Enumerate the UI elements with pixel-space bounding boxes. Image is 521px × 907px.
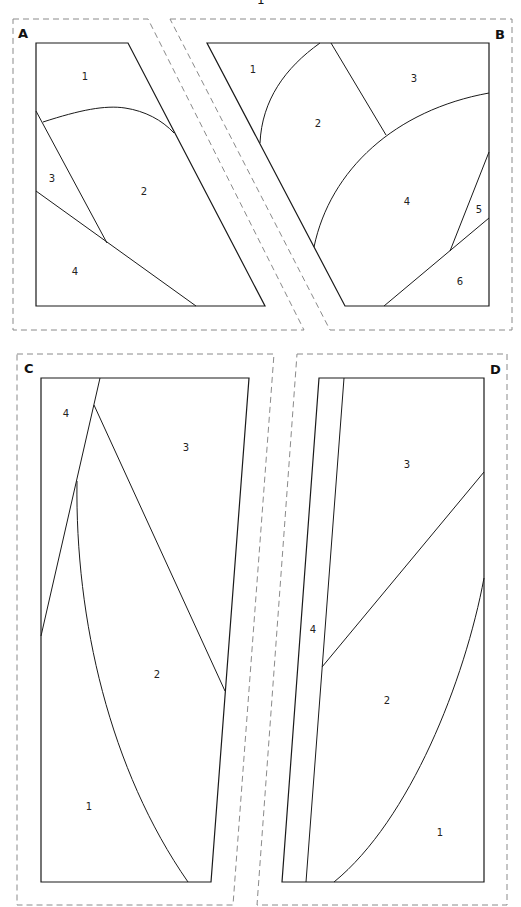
panel-d-seam-2-3 [322,472,484,667]
panel-b-label: B [495,27,505,42]
panel-a-seam-allowance [13,19,304,330]
panel-b-seam-4-5 [450,152,489,251]
panel-d-seam-1-2-arc [334,578,484,882]
panel-d-label: D [490,362,501,377]
panel-c-piece-numbers: 1 2 3 4 [63,408,189,812]
piece-number: 1 [82,71,88,82]
piece-number: 2 [141,186,147,197]
panel-c: C 1 2 3 4 [17,354,274,905]
panel-a-label: A [18,26,28,41]
paper-piecing-pattern-diagram: 1 A 1 2 3 4 B 1 2 3 4 5 6 [0,0,521,907]
panel-a: A 1 2 3 4 [13,19,304,330]
panel-c-seam-1-2-arc [77,481,188,882]
panel-a-seam-4 [36,191,196,306]
panel-c-outline [41,378,249,882]
piece-number: 4 [72,266,78,277]
piece-number: 4 [404,196,410,207]
piece-number: 6 [457,276,463,287]
piece-number: 1 [437,827,443,838]
piece-number: 3 [411,73,417,84]
piece-number: 3 [183,442,189,453]
piece-number: 2 [384,695,390,706]
piece-number: 1 [86,801,92,812]
piece-number: 5 [476,204,482,215]
panel-a-seam-1-2 [43,107,174,133]
piece-number: 3 [49,173,55,184]
title-fragment: 1 [257,0,265,7]
piece-number: 2 [315,118,321,129]
panel-c-label: C [24,361,34,376]
piece-number: 3 [404,459,410,470]
panel-a-seam-3-2 [36,111,107,243]
piece-number: 4 [63,408,69,419]
panel-b-seam-2-3 [331,43,386,135]
panel-c-seam-4 [41,378,100,636]
panel-c-seam-allowance [17,354,274,905]
panel-b-outline [207,43,489,306]
piece-number: 4 [310,624,316,635]
panel-d-seam-allowance [257,354,507,905]
panel-d: D 1 2 3 4 [257,354,507,905]
panel-c-seam-3 [94,405,225,691]
panel-b-seam-6 [384,218,489,306]
panel-d-piece-numbers: 1 2 3 4 [310,459,443,838]
panel-b: B 1 2 3 4 5 6 [170,19,512,330]
panel-b-seam-4-arc [314,93,489,247]
panel-b-seam-1-2 [260,43,320,143]
panel-a-piece-numbers: 1 2 3 4 [49,71,147,277]
piece-number: 2 [154,669,160,680]
piece-number: 1 [250,64,256,75]
